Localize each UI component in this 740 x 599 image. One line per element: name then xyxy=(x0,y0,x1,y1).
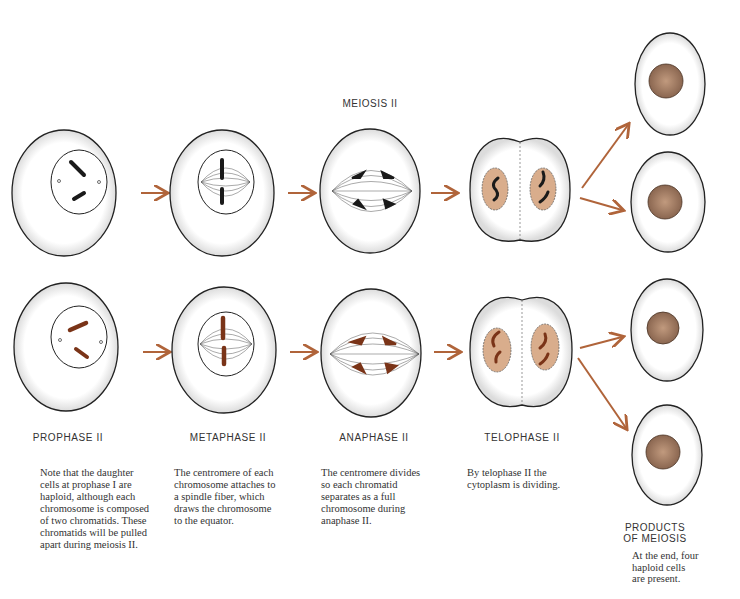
stage-label-anaphase: ANAPHASE II xyxy=(314,432,434,443)
arrow-icon xyxy=(578,358,626,428)
metaphase-cell-bottom xyxy=(172,287,276,413)
metaphase-cell-top xyxy=(170,130,274,256)
prophase-cell-bottom xyxy=(14,283,118,411)
stage-description-metaphase: The centromere of each chromosome attach… xyxy=(174,467,275,527)
arrow-icon xyxy=(580,198,622,210)
stage-label-prophase: PROPHASE II xyxy=(8,432,128,443)
row-1 xyxy=(12,125,628,256)
products-description: At the end, four haploid cells are prese… xyxy=(632,550,698,585)
diagram-title: MEIOSIS II xyxy=(330,98,410,109)
haploid-cell xyxy=(632,405,702,505)
stage-description-telophase: By telophase II the cytoplasm is dividin… xyxy=(467,467,560,491)
haploid-cell xyxy=(635,33,705,135)
row-2 xyxy=(14,283,626,428)
telophase-cell-bottom xyxy=(470,297,572,406)
arrow-icon xyxy=(582,125,628,188)
stage-label-metaphase: METAPHASE II xyxy=(168,432,288,443)
stage-label-telophase: TELOPHASE II xyxy=(462,432,582,443)
haploid-cell xyxy=(631,279,703,381)
arrow-icon xyxy=(580,337,622,348)
stage-description-anaphase: The centromere divides so each chromatid… xyxy=(321,467,420,527)
anaphase-cell-top xyxy=(320,129,420,253)
haploid-cell xyxy=(631,152,705,252)
products-label: PRODUCTS OF MEIOSIS xyxy=(620,522,690,544)
prophase-cell-top xyxy=(12,130,116,256)
anaphase-cell-bottom xyxy=(321,289,421,417)
stage-description-prophase: Note that the daughter cells at prophase… xyxy=(40,467,149,551)
telophase-cell-top xyxy=(470,139,570,242)
